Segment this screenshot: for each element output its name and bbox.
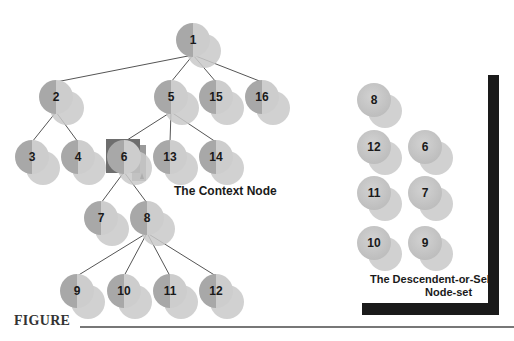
node-label: 4 — [75, 150, 82, 164]
nodeset-node: 9 — [408, 226, 453, 271]
node-label: 10 — [367, 236, 381, 250]
node-label: 15 — [209, 90, 223, 104]
node-label: 5 — [168, 90, 175, 104]
node-label: 11 — [368, 186, 381, 200]
nodeset-node: 7 — [408, 176, 453, 221]
nodeset-nodes: 8126117109 — [357, 83, 453, 271]
tree-node: 11 — [153, 274, 198, 319]
tree-node: 12 — [199, 274, 244, 319]
node-label: 13 — [163, 150, 177, 164]
tree-node: 2 — [39, 80, 84, 125]
tree-node: 13 — [153, 140, 198, 185]
nodeset-node: 8 — [357, 83, 402, 128]
tree-node: 1 — [176, 23, 221, 68]
tree-edge — [124, 112, 171, 142]
nodeset-label-line2: Node-set — [425, 286, 472, 298]
node-label: 6 — [422, 140, 429, 154]
tree-node: 16 — [245, 80, 290, 125]
tree-node: 7 — [84, 201, 129, 246]
tree-node: 4 — [61, 140, 106, 185]
node-label: 7 — [98, 211, 105, 225]
xpath-axis-diagram: 12515163461314789101112 8126117109 The C… — [0, 0, 514, 341]
tree-edge — [56, 55, 193, 82]
node-label: 14 — [209, 150, 223, 164]
tree-node: 14 — [199, 140, 244, 185]
tree-node: 15 — [199, 80, 244, 125]
nodeset-label-line1: The Descendent-or-Self — [370, 273, 493, 285]
nodeset-node: 6 — [408, 130, 453, 175]
tree-nodes: 12515163461314789101112 — [15, 23, 290, 319]
nodeset-node: 10 — [357, 226, 402, 271]
nodeset-node: 11 — [357, 176, 402, 221]
node-label: 10 — [117, 284, 131, 298]
node-label: 6 — [121, 150, 128, 164]
node-label: 3 — [29, 150, 36, 164]
node-label: 8 — [371, 93, 378, 107]
nodeset-node: 12 — [357, 130, 402, 175]
node-label: 9 — [422, 236, 429, 250]
node-label: 16 — [255, 90, 269, 104]
tree-edge — [124, 233, 147, 276]
node-label: 7 — [422, 186, 429, 200]
node-label: 11 — [164, 284, 177, 298]
tree-node: 10 — [107, 274, 152, 319]
node-label: 2 — [53, 90, 60, 104]
figure-rule — [80, 326, 514, 328]
figure-caption: FIGURE — [14, 313, 70, 329]
node-label: 1 — [190, 33, 197, 47]
context-node-label: The Context Node — [174, 184, 277, 198]
tree-node: 3 — [15, 140, 60, 185]
node-label: 12 — [209, 284, 223, 298]
node-label: 9 — [74, 284, 81, 298]
nodeset-frame-bottom — [362, 303, 499, 315]
node-label: 8 — [144, 211, 151, 225]
node-label: 12 — [367, 140, 381, 154]
